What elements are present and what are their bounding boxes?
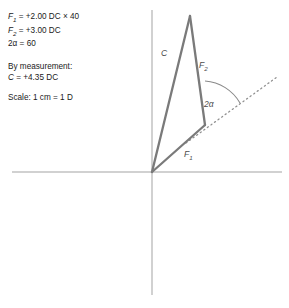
formula-f2-value: = +3.00 DC <box>16 26 60 35</box>
formula-2alpha-symbol: 2α <box>8 39 17 48</box>
label-angle-2alpha: 2α <box>203 99 215 109</box>
scale-annotation: Scale: 1 cm = 1 D <box>8 92 73 103</box>
vector-f1 <box>152 125 205 172</box>
formula-line-2alpha: 2α = 60 <box>8 38 79 49</box>
formula-line-f1: F1 = +2.00 DC × 40 <box>8 11 79 25</box>
measurement-line-c: C = +4.35 DC <box>8 72 72 83</box>
formula-annotations: F1 = +2.00 DC × 40 F2 = +3.00 DC 2α = 60 <box>8 11 79 49</box>
scale-text: Scale: 1 cm = 1 D <box>8 92 73 103</box>
label-f1-subscript: 1 <box>189 154 192 161</box>
formula-f1-value: = +2.00 DC × 40 <box>16 12 79 21</box>
formula-2alpha-value: = 60 <box>17 39 35 48</box>
formula-line-f2: F2 = +3.00 DC <box>8 25 79 39</box>
vector-f2 <box>190 16 205 125</box>
measurement-c-value: = +4.35 DC <box>14 73 58 82</box>
measurement-annotation: By measurement: C = +4.35 DC <box>8 61 72 83</box>
measurement-heading: By measurement: <box>8 61 72 72</box>
label-f1: F1 <box>184 149 193 161</box>
label-c: C <box>161 48 168 58</box>
label-f2: F2 <box>199 60 208 72</box>
label-f2-subscript: 2 <box>203 65 208 72</box>
